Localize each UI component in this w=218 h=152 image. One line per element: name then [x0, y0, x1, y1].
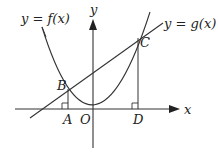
y-axis-label: y — [90, 3, 97, 16]
point-A-label: A — [63, 113, 72, 126]
right-angle-A — [62, 103, 68, 109]
origin-label: O — [80, 113, 91, 126]
coordinate-diagram: y = f(x) y = g(x) y x O B A C D — [0, 0, 218, 152]
right-angle-D — [132, 103, 138, 109]
f-curve-label: y = f(x) — [21, 12, 70, 25]
g-line-label: y = g(x) — [164, 17, 216, 30]
x-axis-label: x — [184, 103, 191, 116]
point-B-label: B — [57, 79, 67, 92]
x-axis-arrow-icon — [169, 105, 180, 113]
point-D-label: D — [133, 113, 143, 126]
f-label-leader — [42, 27, 46, 37]
y-axis-arrow-icon — [89, 19, 97, 30]
point-C-label: C — [140, 36, 150, 49]
